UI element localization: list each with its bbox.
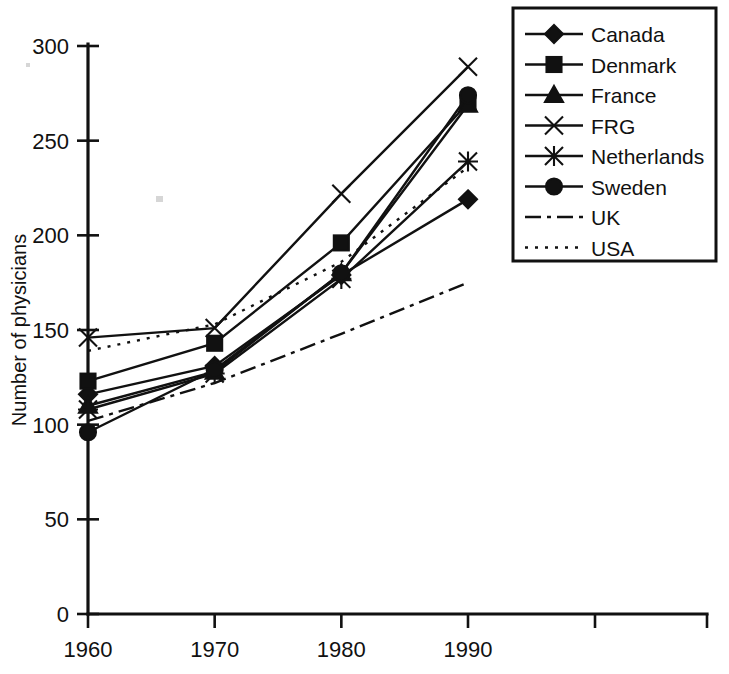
y-tick-label-300: 300 xyxy=(32,34,69,59)
legend-label-france: France xyxy=(591,84,656,107)
legend-label-uk: UK xyxy=(591,206,620,229)
series-canada xyxy=(79,190,477,403)
series-netherlands xyxy=(78,151,478,419)
chart-series xyxy=(78,58,478,440)
marker-netherlands-1990 xyxy=(458,151,478,171)
series-denmark xyxy=(81,95,476,388)
legend-label-sweden: Sweden xyxy=(591,176,667,199)
marker-sweden-1980 xyxy=(333,265,349,281)
marker-sweden-1990 xyxy=(460,87,476,103)
marker-frg-1990 xyxy=(459,58,477,76)
marker-sweden-1960 xyxy=(80,424,96,440)
y-tick-label-200: 200 xyxy=(32,223,69,248)
y-tick-label-150: 150 xyxy=(32,318,69,343)
y-tick-label-0: 0 xyxy=(57,602,69,627)
legend-label-frg: FRG xyxy=(591,115,635,138)
legend-label-usa: USA xyxy=(591,237,634,260)
y-tick-label-50: 50 xyxy=(45,507,69,532)
series-line-france xyxy=(88,105,468,406)
chart-legend: CanadaDenmarkFranceFRGNetherlandsSwedenU… xyxy=(513,8,716,261)
marker-denmark-1970 xyxy=(207,336,222,351)
series-line-uk xyxy=(88,283,468,421)
series-uk xyxy=(88,283,468,421)
marker-frg-1980 xyxy=(332,185,350,203)
legend-marker-denmark xyxy=(547,57,562,72)
series-line-denmark xyxy=(88,103,468,381)
series-line-frg xyxy=(88,67,468,338)
x-tick-label-1980: 1980 xyxy=(317,637,366,662)
x-tick-label-1970: 1970 xyxy=(190,637,239,662)
chart-canvas: 0501001502002503001960197019801990Number… xyxy=(0,0,729,674)
series-line-netherlands xyxy=(88,161,468,409)
series-frg xyxy=(79,58,477,347)
legend-label-denmark: Denmark xyxy=(591,54,677,77)
physicians-line-chart: 0501001502002503001960197019801990Number… xyxy=(0,0,729,674)
y-tick-label-100: 100 xyxy=(32,413,69,438)
x-tick-label-1960: 1960 xyxy=(64,637,113,662)
marker-sweden-1970 xyxy=(207,362,223,378)
legend-marker-sweden xyxy=(546,179,562,195)
legend-label-canada: Canada xyxy=(591,23,665,46)
marker-canada-1990 xyxy=(459,190,477,208)
legend-marker-netherlands xyxy=(544,146,564,166)
series-sweden xyxy=(80,87,476,440)
x-tick-label-1990: 1990 xyxy=(444,637,493,662)
marker-denmark-1960 xyxy=(81,374,96,389)
legend-label-netherlands: Netherlands xyxy=(591,145,704,168)
y-axis-label: Number of physicians xyxy=(8,234,30,426)
marker-netherlands-1960 xyxy=(78,400,98,420)
y-tick-label-250: 250 xyxy=(32,129,69,154)
marker-denmark-1980 xyxy=(334,235,349,250)
